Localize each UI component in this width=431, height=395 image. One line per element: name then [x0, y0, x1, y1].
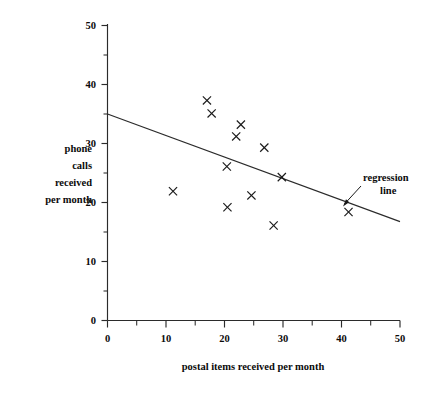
x-axis-title: postal items received per month [182, 361, 325, 372]
y-tick-label-0: 0 [91, 315, 96, 326]
y-axis-title-line-3: received [55, 177, 92, 188]
data-point-marker [344, 208, 352, 216]
x-tick-label-50: 50 [395, 333, 406, 344]
y-axis-title-line-2: calls [72, 160, 92, 171]
y-tick-label-40: 40 [86, 79, 97, 90]
x-tick-label-0: 0 [105, 333, 110, 344]
annotation-line-2: line [380, 185, 397, 196]
y-axis-title: phone calls received per month [45, 143, 92, 205]
x-tick-label-20: 20 [219, 333, 230, 344]
x-axis-minor-ticks [137, 321, 371, 326]
y-axis-title-line-4: per month [45, 194, 92, 205]
scatter-plot-figure: 0 10 20 30 40 50 0 10 20 30 40 50 phone … [0, 0, 431, 395]
y-tick-label-10: 10 [86, 256, 97, 267]
data-point-marker [232, 132, 240, 140]
data-point-marker [223, 203, 231, 211]
data-point-markers [169, 96, 353, 229]
annotation-line-1: regression [363, 172, 409, 183]
data-point-marker [203, 96, 211, 104]
data-point-marker [237, 121, 245, 129]
data-point-marker [260, 144, 268, 152]
plot-canvas: 0 10 20 30 40 50 0 10 20 30 40 50 phone … [0, 0, 431, 395]
x-tick-label-30: 30 [278, 333, 289, 344]
data-point-marker [169, 187, 177, 195]
regression-line-annotation-label: regression line [363, 172, 409, 196]
x-tick-label-40: 40 [336, 333, 347, 344]
data-point-marker [270, 221, 278, 229]
data-point-marker [223, 162, 231, 170]
y-tick-label-50: 50 [86, 20, 97, 31]
data-point-marker [247, 191, 255, 199]
regression-line [108, 114, 401, 222]
y-axis-minor-ticks [104, 55, 108, 291]
data-point-marker [208, 109, 216, 117]
x-tick-label-10: 10 [161, 333, 172, 344]
y-axis-title-line-1: phone [65, 143, 93, 154]
